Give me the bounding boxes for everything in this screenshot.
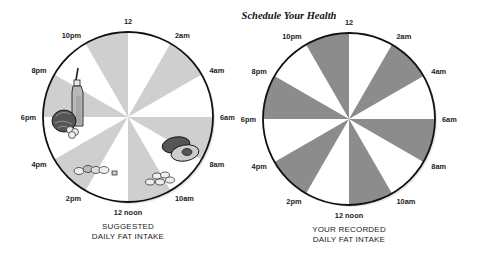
- hour-label: 12 noon: [335, 211, 364, 220]
- hour-label: 10pm: [62, 31, 82, 40]
- hour-label: 6pm: [21, 113, 37, 122]
- hour-label: 4pm: [31, 160, 47, 169]
- hour-label: 6am: [442, 115, 457, 124]
- hour-label: 12: [124, 17, 132, 26]
- hour-label: 12: [345, 18, 353, 27]
- hour-label: 8pm: [31, 66, 47, 75]
- hour-label: 10pm: [282, 32, 302, 41]
- hour-label: 6am: [220, 113, 235, 122]
- hour-label: 8am: [209, 160, 224, 169]
- hour-label: 4am: [209, 66, 224, 75]
- hour-label: 10am: [175, 194, 194, 203]
- hour-label: 2am: [397, 32, 412, 41]
- recorded-caption-line2: DAILY FAT INTAKE: [289, 235, 409, 245]
- hour-label: 4am: [431, 67, 446, 76]
- recorded-caption: YOUR RECORDED DAILY FAT INTAKE: [289, 225, 409, 245]
- hour-label: 8pm: [252, 67, 268, 76]
- suggested-caption: SUGGESTED DAILY FAT INTAKE: [68, 222, 188, 242]
- hour-label: 2pm: [66, 194, 82, 203]
- suggested-caption-line1: SUGGESTED: [68, 222, 188, 232]
- hour-label: 12 noon: [114, 208, 143, 217]
- hour-label: 2am: [175, 31, 190, 40]
- recorded-fat-intake-wheel: 122am4am6am8am10am12 noon2pm4pm6pm8pm10p…: [241, 18, 457, 220]
- suggested-caption-line2: DAILY FAT INTAKE: [68, 232, 188, 242]
- clock-wheels: 122am4am6am8am10am12 noon2pm4pm6pm8pm10p…: [0, 0, 478, 256]
- hour-label: 2pm: [286, 197, 302, 206]
- recorded-caption-line1: YOUR RECORDED: [289, 225, 409, 235]
- hour-label: 10am: [397, 197, 416, 206]
- hour-label: 4pm: [252, 162, 268, 171]
- hour-label: 8am: [431, 162, 446, 171]
- hour-label: 6pm: [241, 115, 257, 124]
